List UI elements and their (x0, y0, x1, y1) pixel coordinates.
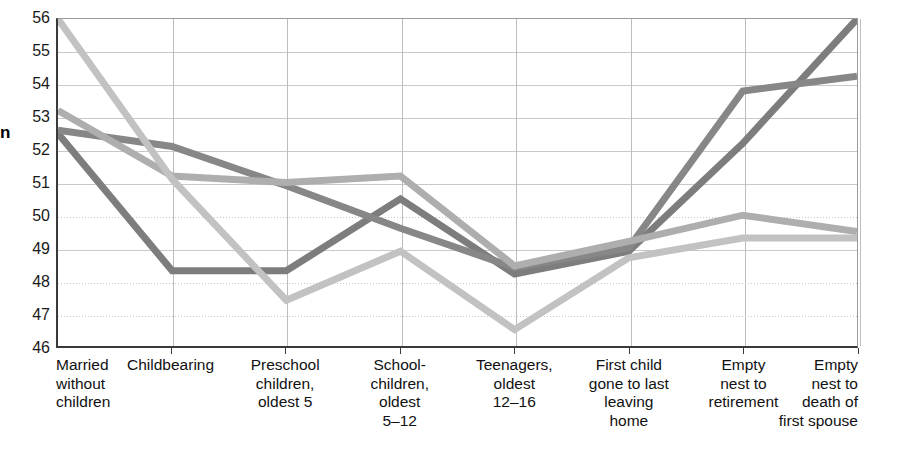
x-tick-mark (514, 348, 515, 354)
x-category-label-line: oldest 5 (228, 393, 343, 412)
y-tick-label: 50 (32, 208, 50, 224)
gridline-vertical (860, 19, 861, 346)
x-category-label-line: first spouse (741, 412, 858, 431)
x-tick-mark (629, 348, 630, 354)
x-category-label-line: oldest (342, 393, 457, 412)
x-category-label-line: Childbearing (113, 356, 228, 375)
y-tick-label: 53 (32, 109, 50, 125)
x-category-label-line: children (56, 393, 161, 412)
x-category-label-line: School- (342, 356, 457, 375)
x-category-label-line: gone to last (572, 375, 687, 394)
y-tick-label: 54 (32, 76, 50, 92)
x-category-label: Preschoolchildren,oldest 5 (228, 356, 343, 412)
x-category-label: First childgone to lastleavinghome (572, 356, 687, 430)
x-category-label-line: Empty (741, 356, 858, 375)
y-tick-label: 48 (32, 274, 50, 290)
y-tick-label: 47 (32, 307, 50, 323)
x-category-label-line: First child (572, 356, 687, 375)
x-category-label-line: leaving (572, 393, 687, 412)
plot-area (56, 18, 858, 348)
x-category-label-line: Preschool (228, 356, 343, 375)
data-lines (58, 19, 857, 346)
x-tick-mark (285, 348, 286, 354)
x-category-label-line: 12–16 (457, 393, 572, 412)
y-tick-label: 52 (32, 142, 50, 158)
x-category-label-line: children, (342, 375, 457, 394)
x-tick-mark (400, 348, 401, 354)
y-axis-title: n (0, 123, 16, 143)
y-axis-tick-labels: 5655545352515049484746 (16, 0, 54, 451)
y-tick-label: 56 (32, 10, 50, 26)
y-tick-label: 46 (32, 340, 50, 356)
x-category-label-line: Teenagers, (457, 356, 572, 375)
x-category-label-line: oldest (457, 375, 572, 394)
y-tick-label: 49 (32, 241, 50, 257)
y-tick-label: 55 (32, 43, 50, 59)
x-axis-category-labels: MarriedwithoutchildrenChildbearingPresch… (56, 356, 858, 451)
x-category-label-line: nest to (741, 375, 858, 394)
x-category-label: School-children,oldest5–12 (342, 356, 457, 430)
x-category-label-line: death of (741, 393, 858, 412)
x-tick-mark (171, 348, 172, 354)
x-category-label-line: children, (228, 375, 343, 394)
x-category-label: Emptynest todeath offirst spouse (741, 356, 858, 430)
x-axis-tick-marks (56, 348, 858, 354)
line-chart: n 5655545352515049484746 Marriedwithoutc… (0, 0, 915, 451)
x-tick-mark (743, 348, 744, 354)
x-category-label-line: 5–12 (342, 412, 457, 431)
x-category-label-line: home (572, 412, 687, 431)
x-category-label-line: without (56, 375, 161, 394)
x-category-label: Teenagers,oldest12–16 (457, 356, 572, 412)
x-category-label: Childbearing (113, 356, 228, 375)
x-tick-mark (858, 348, 859, 354)
y-tick-label: 51 (32, 175, 50, 191)
